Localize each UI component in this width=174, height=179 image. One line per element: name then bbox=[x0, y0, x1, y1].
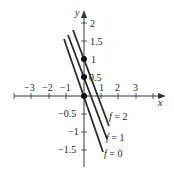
curve-label-f2: f = 2 bbox=[109, 111, 127, 122]
y-tick-label: 1.5 bbox=[90, 36, 103, 47]
level-curve-diagram: −3 −2 −1 1 2 3 0.5 1 1.5 2 −0.5 −1 −1.5 … bbox=[0, 0, 174, 179]
y-tick-label: −1.5 bbox=[58, 144, 76, 155]
y-tick-label: −0.5 bbox=[58, 108, 76, 119]
y-axis-label: y bbox=[74, 7, 80, 18]
point-0-0.5 bbox=[81, 74, 87, 80]
point-0-0 bbox=[81, 93, 87, 99]
y-tick-label: 2 bbox=[90, 18, 95, 29]
x-tick-label: −3 bbox=[24, 82, 35, 93]
curve-label-f1: f = 1 bbox=[106, 132, 124, 143]
x-tick-label: 2 bbox=[115, 82, 120, 93]
x-tick-label: 1 bbox=[99, 82, 104, 93]
x-axis-label: x bbox=[157, 97, 163, 108]
curve-label-f0: f = 0 bbox=[104, 148, 122, 159]
y-tick-label: 1 bbox=[91, 54, 96, 65]
x-tick-label: 3 bbox=[133, 82, 138, 93]
x-tick-label: −2 bbox=[42, 82, 53, 93]
point-0-1 bbox=[81, 56, 87, 62]
y-tick-label: −1 bbox=[68, 126, 79, 137]
y-axis-arrow-icon bbox=[81, 10, 87, 18]
x-tick-label: −1 bbox=[60, 82, 71, 93]
